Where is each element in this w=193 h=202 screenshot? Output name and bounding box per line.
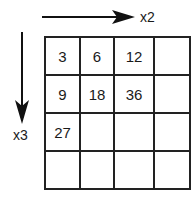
- grid-cell: [154, 37, 190, 75]
- grid-cell: [80, 151, 114, 189]
- grid-cell: 3: [45, 37, 80, 75]
- grid-cell: [154, 75, 190, 113]
- grid-cell: 6: [80, 37, 114, 75]
- grid-cell: 18: [80, 75, 114, 113]
- grid-cell: [114, 151, 154, 189]
- vertical-arrow-icon: [15, 32, 29, 124]
- grid-cell: [154, 151, 190, 189]
- grid-cell: 36: [114, 75, 154, 113]
- vertical-arrow-label: x3: [13, 128, 28, 142]
- grid-row: 9 18 36: [45, 75, 190, 113]
- grid-row: 3 6 12: [45, 37, 190, 75]
- horizontal-arrow-icon: [42, 10, 135, 24]
- grid-row: [45, 151, 190, 189]
- grid-row: 27: [45, 113, 190, 151]
- grid-cell: 9: [45, 75, 80, 113]
- grid-cell: 27: [45, 113, 80, 151]
- multiplication-grid: 3 6 12 9 18 36 27: [44, 36, 191, 190]
- horizontal-arrow-label: x2: [140, 10, 155, 24]
- grid-cell: [154, 113, 190, 151]
- grid-cell: [80, 113, 114, 151]
- grid-cell: [114, 113, 154, 151]
- grid-cell: [45, 151, 80, 189]
- grid-cell: 12: [114, 37, 154, 75]
